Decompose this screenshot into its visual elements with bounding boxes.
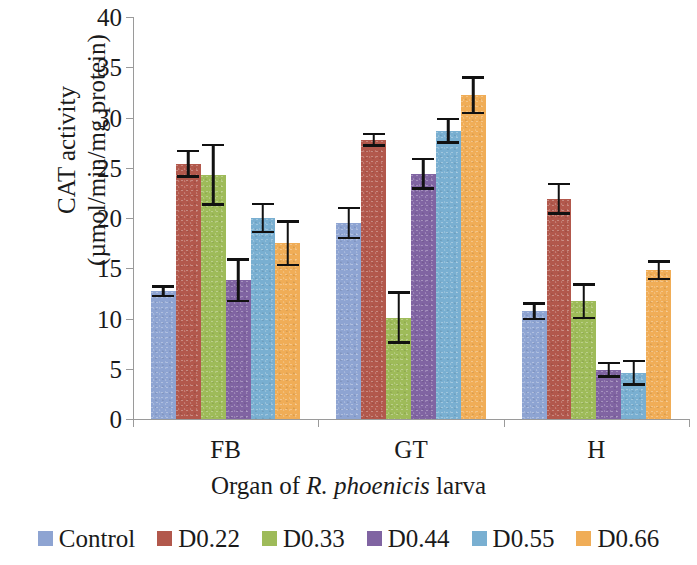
legend-label: D0.55: [493, 526, 555, 551]
bar[interactable]: [436, 131, 461, 419]
x-axis-line: [133, 419, 689, 420]
bar[interactable]: [151, 291, 176, 419]
bar-slot: [176, 17, 201, 419]
error-bar-cap-top: [648, 260, 670, 263]
legend-label: D0.44: [388, 526, 450, 551]
error-bar-cap-top: [363, 133, 385, 136]
error-bar: [523, 302, 545, 320]
y-axis-tick-mark: [126, 17, 133, 18]
x-axis-tick-mark: [133, 419, 134, 427]
error-bar-stem: [262, 203, 265, 233]
y-axis-tick-mark: [126, 419, 133, 420]
error-bar-cap-top: [523, 302, 545, 305]
legend-item[interactable]: D0.22: [157, 526, 240, 551]
y-axis-tick-label: 25: [78, 155, 122, 180]
legend-swatch: [576, 531, 591, 546]
bar-texture: [151, 291, 176, 419]
legend-label: D0.33: [283, 526, 345, 551]
bar[interactable]: [201, 175, 226, 419]
bar[interactable]: [251, 218, 276, 419]
bar-group: [133, 17, 318, 419]
bar-texture: [646, 270, 671, 419]
bar-group: [318, 17, 503, 419]
bar-slot: [646, 17, 671, 419]
bar[interactable]: [361, 140, 386, 419]
bar[interactable]: [522, 311, 547, 419]
error-bar-cap-top: [388, 291, 410, 294]
bar-slot: [621, 17, 646, 419]
error-bar-cap-bottom: [227, 300, 249, 303]
legend-item[interactable]: D0.66: [576, 526, 659, 551]
bar-slot: [201, 17, 226, 419]
y-axis-tick-label: 40: [78, 5, 122, 30]
error-bar-cap-bottom: [202, 203, 224, 206]
y-axis-tick-label: 10: [78, 306, 122, 331]
bar-texture: [336, 223, 361, 419]
bar-texture: [201, 175, 226, 419]
error-bar-cap-bottom: [338, 237, 360, 240]
bar-slot: [596, 17, 621, 419]
x-axis-tick-mark: [504, 419, 505, 427]
legend-item[interactable]: Control: [38, 526, 135, 551]
y-axis-tick-label: 5: [78, 356, 122, 381]
error-bar-cap-bottom: [252, 231, 274, 234]
error-bar-stem: [583, 283, 586, 319]
error-bar-stem: [558, 183, 561, 215]
x-axis-title: Organ of R. phoenicis larva: [0, 472, 697, 500]
bar-slot: [461, 17, 486, 419]
bar[interactable]: [461, 95, 486, 419]
error-bar-stem: [422, 158, 425, 190]
x-axis-tick-mark: [318, 419, 319, 427]
error-bar-cap-bottom: [523, 318, 545, 321]
error-bar-stem: [472, 76, 475, 114]
error-bar-stem: [447, 118, 450, 144]
y-axis-tick-mark: [126, 369, 133, 370]
bar[interactable]: [547, 199, 572, 419]
legend-swatch: [38, 531, 53, 546]
legend-item[interactable]: D0.33: [262, 526, 345, 551]
bar[interactable]: [275, 243, 300, 419]
legend-item[interactable]: D0.55: [472, 526, 555, 551]
bar[interactable]: [646, 270, 671, 419]
error-bar: [277, 220, 299, 266]
error-bar-cap-top: [202, 144, 224, 147]
bar-texture: [361, 140, 386, 419]
y-axis-tick-mark: [126, 218, 133, 219]
error-bar-cap-bottom: [648, 278, 670, 281]
error-bar-cap-bottom: [598, 375, 620, 378]
bar-slot: [251, 17, 276, 419]
error-bar: [648, 260, 670, 280]
error-bar-cap-top: [338, 207, 360, 210]
y-axis-tick-label: 30: [78, 105, 122, 130]
bar-texture: [547, 199, 572, 419]
legend-item[interactable]: D0.44: [367, 526, 450, 551]
error-bar-cap-bottom: [388, 341, 410, 344]
error-bar-cap-top: [227, 258, 249, 261]
error-bar-stem: [212, 144, 215, 206]
error-bar-cap-bottom: [623, 383, 645, 386]
y-axis-tick-label: 20: [78, 206, 122, 231]
x-axis-title-post: larva: [430, 472, 486, 499]
bar-texture: [522, 311, 547, 419]
bar-slot: [571, 17, 596, 419]
bar[interactable]: [176, 164, 201, 419]
y-axis-tick-label: 15: [78, 256, 122, 281]
bar[interactable]: [336, 223, 361, 419]
error-bar-cap-bottom: [548, 212, 570, 215]
bar-slot: [547, 17, 572, 419]
error-bar: [152, 285, 174, 297]
error-bar-cap-top: [177, 150, 199, 153]
error-bar-cap-top: [462, 76, 484, 79]
legend-swatch: [157, 531, 172, 546]
y-axis-tick-mark: [126, 118, 133, 119]
error-bar: [338, 207, 360, 239]
x-axis-tick-mark: [689, 419, 690, 427]
error-bar: [623, 360, 645, 386]
bar[interactable]: [411, 174, 436, 419]
bar-texture: [275, 243, 300, 419]
legend-label: D0.22: [178, 526, 240, 551]
error-bar: [462, 76, 484, 114]
legend-label: Control: [59, 526, 135, 551]
error-bar: [573, 283, 595, 319]
error-bar: [202, 144, 224, 206]
